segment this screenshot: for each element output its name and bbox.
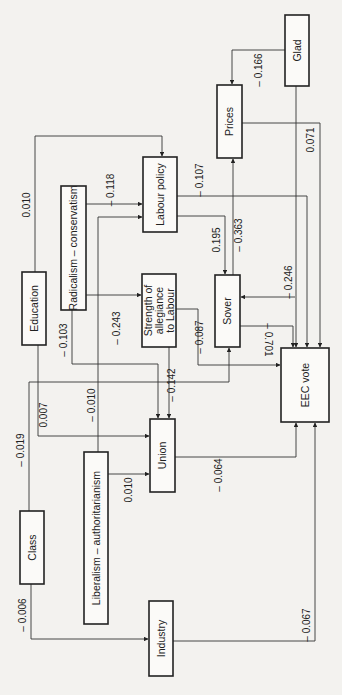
coefficient-label: 0.010: [123, 477, 134, 502]
path-diagram: GladPricesLabour policyRadicalism – cons…: [0, 0, 342, 695]
node-union: Union: [150, 419, 175, 492]
node-label: Radicalism – conservatism: [67, 185, 79, 310]
edge-industry-to-eec_vote: [173, 423, 315, 641]
node-education: Education: [22, 272, 46, 345]
node-label: Class: [26, 534, 38, 560]
node-sover: Sover: [215, 275, 240, 347]
coefficient-label: – 0.243: [111, 311, 122, 345]
node-label: Prices: [223, 107, 235, 136]
coefficient-label: – 0.701: [263, 323, 274, 357]
coefficient-label: 0.010: [21, 192, 32, 217]
edge-union-to-eec_vote: [175, 423, 296, 457]
node-class: Class: [20, 511, 44, 584]
edge-prices-to-eec_vote: [242, 123, 320, 347]
node-label: EEC vote: [299, 363, 311, 408]
coefficient-label: – 0.087: [194, 320, 205, 354]
coefficient-label: 0.195: [211, 227, 222, 252]
node-label: Strength ofallegianceto Labour: [142, 285, 176, 336]
coefficient-label: – 0.107: [194, 163, 205, 197]
coefficient-label: – 0.166: [253, 53, 264, 87]
node-label: Sover: [221, 297, 233, 325]
node-label: Labour policy: [154, 163, 166, 226]
coefficient-label: – 0.118: [105, 173, 116, 206]
node-radicalism: Radicalism – conservatism: [61, 185, 86, 310]
coefficient-label: – 0.019: [15, 433, 26, 467]
coefficient-label: 0.071: [305, 127, 316, 152]
coefficient-label: – 0.006: [17, 598, 28, 632]
node-allegiance: Strength ofallegianceto Labour: [142, 274, 177, 347]
coefficient-label: – 0.246: [283, 265, 294, 299]
node-prices: Prices: [217, 85, 242, 158]
coefficient-label: – 0.103: [58, 323, 69, 357]
node-label: Liberalism – authoritarianism: [90, 471, 102, 605]
node-liberalism: Liberalism – authoritarianism: [84, 452, 108, 624]
node-label: Glad: [291, 39, 303, 61]
coefficient-label: – 0.067: [301, 608, 312, 642]
coefficient-label: – 0.064: [213, 458, 224, 492]
node-label: Union: [156, 442, 168, 470]
node-glad: Glad: [285, 15, 309, 86]
coefficient-label: – 0.142: [166, 368, 177, 402]
coefficient-label: – 0.010: [86, 388, 97, 422]
node-label: Industry: [155, 619, 167, 657]
coefficient-label: – 0.363: [233, 218, 244, 252]
node-eec-vote: EEC vote: [281, 348, 329, 422]
node-industry: Industry: [149, 601, 173, 676]
coefficient-label: 0.007: [38, 402, 49, 427]
node-labour-policy: Labour policy: [143, 157, 177, 232]
node-label: Education: [28, 285, 40, 332]
